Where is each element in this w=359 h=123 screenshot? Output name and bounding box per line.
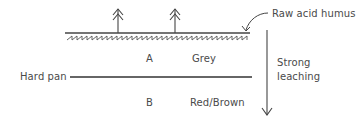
hard-pan-label: Hard pan [20, 71, 67, 83]
coniferous-tree-icon [170, 9, 180, 33]
horizon-b-color-label: Red/Brown [190, 97, 245, 109]
horizon-a-label: A [146, 53, 153, 65]
raw-humus-hatching [67, 36, 247, 40]
curved-arrow-icon [242, 13, 268, 31]
podzol-diagram: Raw acid humus A Grey Hard pan B Red/Bro… [0, 0, 359, 123]
strong-leaching-label-line2: leaching [277, 71, 320, 83]
down-arrow-icon [262, 30, 272, 115]
horizon-a-color-label: Grey [192, 53, 216, 65]
raw-acid-humus-label: Raw acid humus [272, 8, 356, 20]
strong-leaching-label-line1: Strong [277, 57, 311, 69]
horizon-b-label: B [146, 97, 153, 109]
coniferous-tree-icon [113, 9, 123, 33]
